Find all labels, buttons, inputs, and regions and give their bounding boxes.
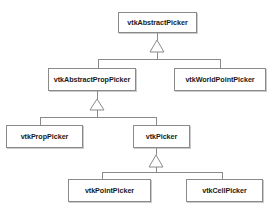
class-name-label: vtkAbstractPicker [127,19,187,26]
inheritance-arrowhead-icon [150,40,164,52]
class-name-label: vtkPointPicker [85,187,134,194]
uml-class-diagram: vtkAbstractPickervtkAbstractPropPickervt… [0,0,271,212]
class-box-vtkproppicker[interactable]: vtkPropPicker [6,125,83,148]
generalization-vtkabstractproppicker [40,91,156,125]
inheritance-arrowhead-icon [149,155,163,167]
class-box-vtkabstractpicker[interactable]: vtkAbstractPicker [118,12,197,33]
class-name-label: vtkPicker [146,133,178,140]
class-name-label: vtkAbstractPropPicker [54,76,130,83]
class-box-vtkpointpicker[interactable]: vtkPointPicker [68,179,151,202]
class-box-vtkworldpointpicker[interactable]: vtkWorldPointPicker [174,68,266,91]
class-box-vtkabstractproppicker[interactable]: vtkAbstractPropPicker [48,68,136,91]
class-name-label: vtkPropPicker [21,133,69,140]
generalization-vtkabstractpicker [98,33,220,68]
class-box-vtkpicker[interactable]: vtkPicker [133,125,190,148]
inheritance-arrowhead-icon [90,99,104,110]
class-name-label: vtkWorldPointPicker [185,76,254,83]
generalization-vtkpicker [102,148,222,179]
class-box-vtkcellpicker[interactable]: vtkCellPicker [186,179,263,202]
class-name-label: vtkCellPicker [202,187,247,194]
